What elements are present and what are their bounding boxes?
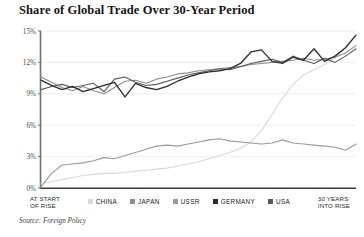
- series-line-japan: [41, 46, 356, 94]
- y-axis-tick-label: 15%: [23, 28, 36, 36]
- y-axis-tick-label: 12%: [23, 59, 36, 67]
- x-axis-end-label-line1: 30 YEARS: [318, 195, 350, 202]
- x-axis-start-label-line2: OF RISE: [30, 202, 60, 209]
- line-chart-svg: 0%3%6%9%12%15%: [0, 24, 364, 194]
- source-note: Source: Foreign Policy: [19, 217, 86, 225]
- chart-figure: Share of Global Trade Over 30-Year Perio…: [0, 0, 364, 237]
- x-axis-start-label-line1: AT START: [30, 195, 60, 202]
- data-series-group: [41, 35, 356, 187]
- page-title: Share of Global Trade Over 30-Year Perio…: [19, 3, 255, 18]
- legend-label: JAPAN: [138, 198, 160, 205]
- plot-area: 0%3%6%9%12%15%: [0, 24, 364, 194]
- chart-legend: AT START OF RISE CHINAJAPANUSSRGERMANYUS…: [0, 194, 364, 216]
- legend-item-germany[interactable]: GERMANY: [213, 198, 255, 205]
- y-axis-ticks: 0%3%6%9%12%15%: [23, 28, 41, 193]
- legend-swatch-icon: [88, 199, 93, 204]
- legend-swatch-icon: [173, 199, 178, 204]
- y-axis-tick-label: 9%: [26, 90, 36, 98]
- legend-items: CHINAJAPANUSSRGERMANYUSA: [88, 194, 290, 205]
- y-axis-tick-label: 0%: [26, 185, 36, 193]
- x-axis-end-label: 30 YEARS INTO RISE: [318, 194, 350, 210]
- series-line-ussr: [41, 139, 356, 187]
- legend-swatch-icon: [130, 199, 135, 204]
- x-axis-end-label-line2: INTO RISE: [318, 202, 350, 209]
- legend-item-usa[interactable]: USA: [268, 198, 290, 205]
- legend-swatch-icon: [268, 199, 273, 204]
- y-axis-tick-label: 6%: [26, 122, 36, 130]
- legend-label: GERMANY: [221, 198, 255, 205]
- legend-item-ussr[interactable]: USSR: [173, 198, 200, 205]
- legend-item-japan[interactable]: JAPAN: [130, 198, 160, 205]
- legend-label: USSR: [181, 198, 200, 205]
- legend-label: CHINA: [96, 198, 117, 205]
- legend-label: USA: [276, 198, 290, 205]
- legend-swatch-icon: [213, 199, 218, 204]
- y-axis-tick-label: 3%: [26, 153, 36, 161]
- x-axis-start-label: AT START OF RISE: [30, 194, 60, 210]
- gridlines: [41, 31, 356, 157]
- legend-item-china[interactable]: CHINA: [88, 198, 117, 205]
- series-line-germany: [41, 35, 356, 97]
